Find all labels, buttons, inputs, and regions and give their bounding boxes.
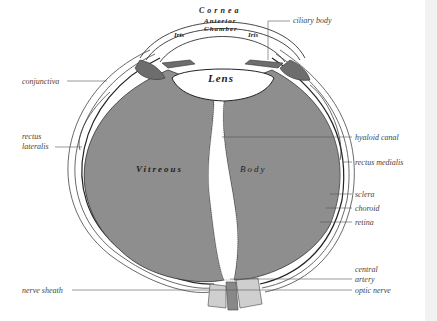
iris-left [162,60,195,68]
label-iris-right: Iris [248,31,258,39]
vitreous-right [223,70,340,280]
callout-conjunctiva: conjunctiva [22,77,59,86]
callout-central-artery-line2: artery [355,275,375,284]
callout-hyaloid-canal: hyaloid canal [355,133,399,142]
label-iris-left: Iris [174,31,184,39]
label-vitreous: Vitreous [136,164,183,174]
callout-ciliary-body: ciliary body [293,16,331,25]
label-lens: Lens [208,72,234,84]
callout-optic-nerve: optic nerve [355,286,391,295]
callout-nerve-sheath: nerve sheath [22,286,63,295]
callout-rectus-lateralis-line1: rectus [22,132,41,141]
callout-choroid: choroid [355,204,380,213]
label-chamber: Chamber [204,25,238,33]
callout-sclera: sclera [355,190,375,199]
label-body: Body [240,164,267,174]
callout-rectus-lateralis-line2: lateralis [22,142,49,151]
optic-nerve [208,278,262,310]
label-cornea: Cornea [199,6,241,15]
ciliary-body-left [135,60,165,80]
callout-retina: retina [355,218,374,227]
label-anterior: Anterior [204,17,237,25]
callout-rectus-medialis: rectus medialis [355,158,403,167]
callout-central-artery-line1: central [355,265,378,274]
